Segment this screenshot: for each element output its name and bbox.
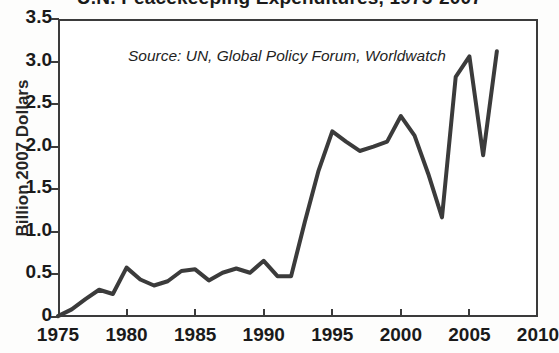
- y-axis-tick-mark: [51, 231, 59, 233]
- y-axis-tick-mark: [51, 103, 59, 105]
- y-tick-label: 3.0: [6, 49, 52, 71]
- x-tick-label: 1985: [160, 324, 230, 346]
- source-note: Source: UN, Global Policy Forum, Worldwa…: [128, 47, 446, 65]
- x-axis-tick-mark: [126, 309, 128, 317]
- y-tick-label: 2.5: [6, 91, 52, 113]
- y-tick-label: 1.0: [6, 219, 52, 241]
- x-axis-tick-mark: [331, 309, 333, 317]
- y-tick-label: 0: [6, 304, 52, 326]
- y-axis-tick-labels: 00.51.01.52.02.53.03.5: [0, 0, 52, 353]
- y-axis-tick-mark: [51, 146, 59, 148]
- y-axis-tick-mark: [51, 188, 59, 190]
- y-tick-label: 0.5: [6, 261, 52, 283]
- plot-area: Source: UN, Global Policy Forum, Worldwa…: [58, 19, 538, 317]
- chart-figure: U.N. Peacekeeping Expenditures, 1975-200…: [0, 0, 559, 353]
- y-tick-label: 1.5: [6, 176, 52, 198]
- chart-title: U.N. Peacekeeping Expenditures, 1975-200…: [0, 0, 559, 9]
- y-axis-tick-mark: [51, 61, 59, 63]
- x-axis-tick-mark: [468, 309, 470, 317]
- y-axis-tick-mark: [51, 273, 59, 275]
- x-tick-label: 2010: [503, 324, 559, 346]
- y-tick-label: 2.0: [6, 134, 52, 156]
- x-axis-tick-mark: [400, 309, 402, 317]
- x-tick-label: 2005: [434, 324, 504, 346]
- x-tick-label: 2000: [366, 324, 436, 346]
- x-axis-tick-mark: [194, 309, 196, 317]
- x-tick-label: 1990: [229, 324, 299, 346]
- y-axis-tick-mark: [51, 18, 59, 20]
- x-tick-label: 1980: [92, 324, 162, 346]
- x-tick-label: 1995: [297, 324, 367, 346]
- y-tick-label: 3.5: [6, 6, 52, 28]
- y-axis-tick-mark: [51, 316, 59, 318]
- x-axis-tick-mark: [263, 309, 265, 317]
- x-tick-label: 1975: [23, 324, 93, 346]
